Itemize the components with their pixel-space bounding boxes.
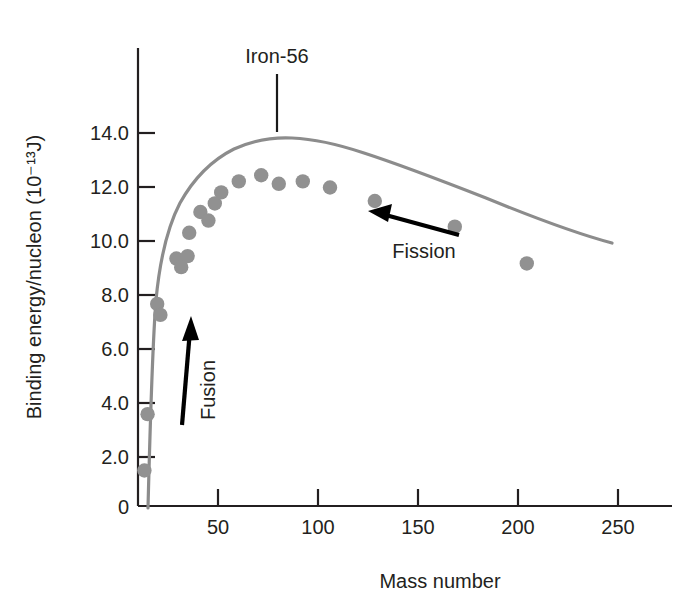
iron-56-annotation: Iron-56	[245, 45, 308, 132]
data-point	[180, 249, 194, 263]
data-point	[153, 308, 167, 322]
data-point	[137, 463, 151, 477]
data-point	[368, 194, 382, 208]
y-tick-label-6: 6.0	[101, 338, 129, 360]
data-point	[182, 226, 196, 240]
x-tick-label-100: 100	[301, 516, 334, 538]
fission-arrow-shaft	[382, 214, 459, 235]
data-point	[296, 174, 310, 188]
data-point	[201, 213, 215, 227]
x-tick-marks	[218, 489, 618, 506]
y-tick-label-4: 4.0	[101, 392, 129, 414]
x-tick-label-150: 150	[401, 516, 434, 538]
y-tick-label-10: 10.0	[90, 230, 129, 252]
iron-56-label: Iron-56	[245, 45, 308, 67]
y-tick-label-8: 8.0	[101, 284, 129, 306]
x-tick-label-50: 50	[207, 516, 229, 538]
fission-label: Fission	[392, 240, 455, 262]
fusion-annotation: Fusion	[182, 316, 219, 425]
data-point	[254, 168, 268, 182]
x-axis-title: Mass number	[379, 570, 500, 592]
data-point	[214, 185, 228, 199]
data-point	[272, 177, 286, 191]
data-point	[323, 180, 337, 194]
y-tick-label-2: 2.0	[101, 446, 129, 468]
data-points-group	[137, 168, 534, 478]
axes-group	[138, 48, 672, 506]
binding-energy-chart: 14.0 12.0 10.0 8.0 6.0 4.0 2.0 0 50 100 …	[0, 0, 687, 613]
y-tick-label-12: 12.0	[90, 176, 129, 198]
fission-annotation: Fission	[368, 204, 459, 262]
y-tick-label-0: 0	[118, 496, 129, 518]
data-point	[232, 174, 246, 188]
y-axis-title: Binding energy/nucleon (10⁻¹³J)	[23, 135, 45, 420]
x-tick-label-200: 200	[501, 516, 534, 538]
fusion-label: Fusion	[197, 360, 219, 420]
x-tick-label-250: 250	[601, 516, 634, 538]
y-tick-labels: 14.0 12.0 10.0 8.0 6.0 4.0 2.0 0	[90, 122, 129, 518]
data-point	[140, 407, 154, 421]
x-tick-labels: 50 100 150 200 250	[207, 516, 635, 538]
figure-container: 14.0 12.0 10.0 8.0 6.0 4.0 2.0 0 50 100 …	[0, 0, 687, 613]
y-tick-label-14: 14.0	[90, 122, 129, 144]
data-point	[520, 256, 534, 270]
fusion-arrow-shaft	[182, 330, 190, 425]
fusion-arrow-head	[182, 316, 199, 341]
